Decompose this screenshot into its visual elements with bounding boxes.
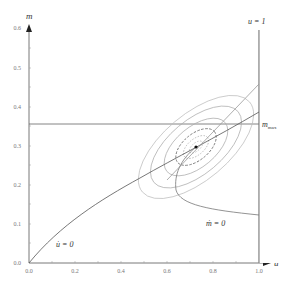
x-tick-label: 0.8 [209,268,217,274]
y-tick-label: 0.2 [14,182,22,188]
mdot-zero-curve [176,147,259,215]
y-tick-label: 0.3 [14,143,22,149]
x-tick-label: 0.0 [25,268,33,274]
y-tick-label: 0.4 [14,104,22,110]
y-axis-arrow-icon [26,24,32,32]
y-tick-label: 0.6 [14,25,22,31]
udot-zero-label: u̇ = 0 [56,240,73,249]
mask [260,30,297,263]
u-equals-one-label: u = 1 [248,17,265,26]
y-tick-label: 0.1 [14,221,22,227]
mdot-zero-label: ṁ = 0 [206,219,225,228]
y-tick-label: 0.5 [14,65,22,71]
x-tick-label: 1.0 [255,268,263,274]
x-tick-label: 0.2 [71,268,79,274]
steep-line [167,84,259,180]
y-axis-label: m [26,11,33,21]
x-tick-label: 0.6 [163,268,171,274]
equilibrium-point [194,145,197,148]
y-tick-label: 0.0 [14,260,22,266]
phase-plot: 0.0 0.2 0.4 0.6 0.8 1.0 0.0 0.1 0.2 0.3 … [0,0,297,287]
x-tick-label: 0.4 [117,268,125,274]
